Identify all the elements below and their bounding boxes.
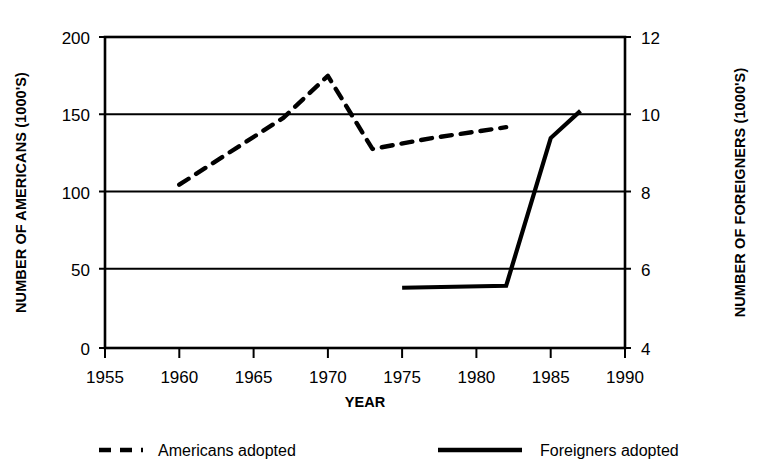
x-axis-title: YEAR [345,394,386,410]
right-tick-labels: 12 10 8 6 4 [641,29,660,359]
y-axis-title: NUMBER OF AMERICANS (1000'S) [13,72,29,313]
legend-label-foreigners-adopted: Foreigners adopted [540,442,679,459]
x-tick-labels: 1955 1960 1965 1970 1975 1980 1985 1990 [86,368,644,387]
right-tick-label-10: 10 [641,106,660,125]
x-axis-ticks [105,348,625,358]
left-tick-label-50: 50 [71,261,90,280]
chart-canvas: 200 150 100 50 0 12 10 8 6 4 1955 1960 1… [0,0,771,476]
left-tick-label-100: 100 [62,184,90,203]
y2-axis-title: NUMBER OF FOREIGNERS (1000'S) [732,68,748,318]
x-tick-label-1980: 1980 [457,368,495,387]
legend-item-foreigners-adopted[interactable]: Foreigners adopted [438,442,679,459]
x-tick-label-1970: 1970 [309,368,347,387]
x-tick-label-1965: 1965 [235,368,273,387]
right-tick-label-6: 6 [641,261,650,280]
x-tick-label-1955: 1955 [86,368,124,387]
chart-figure: 200 150 100 50 0 12 10 8 6 4 1955 1960 1… [0,0,771,476]
legend-item-americans-adopted[interactable]: Americans adopted [99,442,296,459]
legend-label-americans-adopted: Americans adopted [158,442,296,459]
left-tick-labels: 200 150 100 50 0 [62,29,90,359]
x-tick-label-1975: 1975 [383,368,421,387]
legend: Americans adopted Foreigners adopted [99,442,679,459]
x-tick-label-1960: 1960 [160,368,198,387]
right-tick-label-4: 4 [641,340,650,359]
right-tick-label-12: 12 [641,29,660,48]
left-tick-label-150: 150 [62,106,90,125]
left-tick-label-200: 200 [62,29,90,48]
x-tick-label-1990: 1990 [606,368,644,387]
x-tick-label-1985: 1985 [532,368,570,387]
right-tick-label-8: 8 [641,184,650,203]
left-tick-label-0: 0 [81,340,90,359]
